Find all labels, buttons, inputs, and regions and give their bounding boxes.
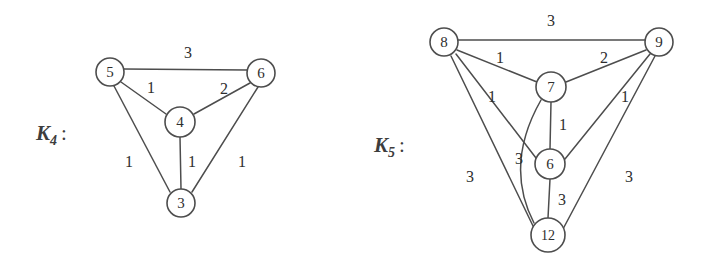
edge-weight-6-3: 1 xyxy=(238,153,246,170)
node-6: 6 xyxy=(247,59,275,87)
graph-label-k5-subscript: 5 xyxy=(388,145,395,160)
edge-weight-9-12: 3 xyxy=(625,168,633,185)
node-6-k5-label: 6 xyxy=(546,156,554,172)
node-3: 3 xyxy=(167,189,195,217)
graph-label-k4-subscript: 4 xyxy=(49,133,57,148)
graph-figure: K4: 3 1 2 1 1 1 5 6 4 3 xyxy=(0,0,706,267)
edge-weight-8-6: 1 xyxy=(488,88,496,105)
edge-8-12 xyxy=(451,56,534,228)
edge-weight-5-4: 1 xyxy=(147,79,155,96)
node-3-label: 3 xyxy=(177,195,185,211)
edge-6-3 xyxy=(192,87,258,192)
edge-7-6 xyxy=(550,102,551,149)
edge-6-12 xyxy=(548,179,550,218)
edge-weight-7-12: 3 xyxy=(515,150,523,167)
edge-5-4 xyxy=(121,82,166,114)
node-4: 4 xyxy=(165,107,195,137)
edge-weight-6-12: 3 xyxy=(558,191,566,208)
node-5-label: 5 xyxy=(106,64,114,80)
edge-4-3 xyxy=(180,137,181,189)
edge-5-3 xyxy=(114,86,170,192)
edge-weight-8-12: 3 xyxy=(466,168,474,185)
graph-k5: K5: 3 1 2 1 1 1 3 3 3 3 8 9 xyxy=(373,12,673,253)
node-9: 9 xyxy=(645,28,673,56)
node-6-k5: 6 xyxy=(535,149,565,179)
edge-weight-7-6: 1 xyxy=(559,116,567,133)
node-7-label: 7 xyxy=(547,79,555,95)
node-4-label: 4 xyxy=(176,114,184,130)
node-12: 12 xyxy=(531,218,565,252)
edge-weight-8-7: 1 xyxy=(496,49,504,66)
node-9-label: 9 xyxy=(655,34,663,50)
node-12-label: 12 xyxy=(541,228,555,243)
edge-9-12 xyxy=(563,56,655,229)
edge-weight-5-6: 3 xyxy=(184,44,192,61)
edge-weight-6-9: 1 xyxy=(621,88,629,105)
graph-k4: K4: 3 1 2 1 1 1 5 6 4 3 xyxy=(35,44,275,218)
edge-weight-4-6: 2 xyxy=(220,80,228,97)
node-7: 7 xyxy=(536,72,566,102)
node-8: 8 xyxy=(430,28,458,56)
graph-label-k5-colon: : xyxy=(399,133,405,157)
edge-weight-7-9: 2 xyxy=(600,49,608,66)
graph-label-k4-colon: : xyxy=(61,121,67,145)
edge-weight-8-9: 3 xyxy=(547,12,555,29)
edge-5-6 xyxy=(124,69,247,70)
graph-label-k4: K4: xyxy=(35,121,67,148)
node-8-label: 8 xyxy=(440,34,448,50)
graph-label-k5: K5: xyxy=(373,133,405,160)
edge-6-9 xyxy=(565,54,650,159)
edge-weight-5-3: 1 xyxy=(125,153,133,170)
edge-weight-4-3: 1 xyxy=(188,153,196,170)
node-6-label: 6 xyxy=(257,65,265,81)
node-5: 5 xyxy=(96,58,124,86)
